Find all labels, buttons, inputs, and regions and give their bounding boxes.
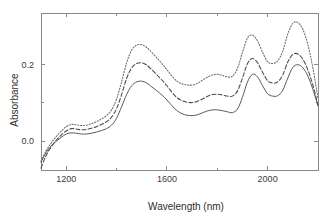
- x-axis-title: Wavelength (nm): [148, 201, 224, 212]
- series-line-lower-spectrum: [41, 65, 318, 163]
- x-tick-label: 2000: [258, 174, 278, 184]
- axis-tick-labels: 1200160020000.00.2: [21, 60, 277, 184]
- data-series-group: [41, 22, 318, 168]
- axis-tick-marks: [41, 13, 318, 170]
- x-tick-label: 1600: [157, 174, 177, 184]
- absorbance-spectra-figure: 1200160020000.00.2 Wavelength (nm) Absor…: [0, 0, 332, 217]
- y-tick-label: 0.2: [21, 60, 34, 70]
- series-line-upper-spectrum: [41, 22, 318, 161]
- series-line-middle-spectrum: [41, 53, 318, 168]
- y-tick-label: 0.0: [21, 136, 34, 146]
- chart-canvas: 1200160020000.00.2 Wavelength (nm) Absor…: [0, 0, 332, 217]
- x-tick-label: 1200: [56, 174, 76, 184]
- y-axis-title: Absorbance: [9, 73, 20, 127]
- plot-frame: [41, 13, 318, 170]
